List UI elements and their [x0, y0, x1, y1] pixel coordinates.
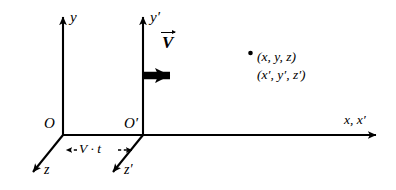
point-coordinates-unprimed-label: (x, y, z) [257, 50, 296, 64]
displacement-label: V · t [79, 142, 101, 156]
z-prime-axis-label: z′ [124, 163, 133, 177]
origin-prime-label: O′ [124, 116, 138, 131]
y-axis-label: y [70, 10, 77, 25]
z-axis-label: z [44, 163, 49, 177]
point-coordinates-primed-label: (x′, y′, z′) [257, 68, 306, 82]
diagram-canvas [0, 0, 396, 190]
x-axis-label: x, x′ [344, 113, 366, 127]
reference-frames-diagram: y y′ V (x, y, z) (x′, y′, z′) O O′ x, x′… [0, 0, 396, 190]
velocity-vector-glyph: V [162, 34, 173, 51]
velocity-vector-label: V [162, 34, 173, 51]
event-point-marker [248, 51, 253, 56]
origin-label: O [44, 116, 55, 131]
y-prime-axis-label: y′ [150, 10, 160, 25]
